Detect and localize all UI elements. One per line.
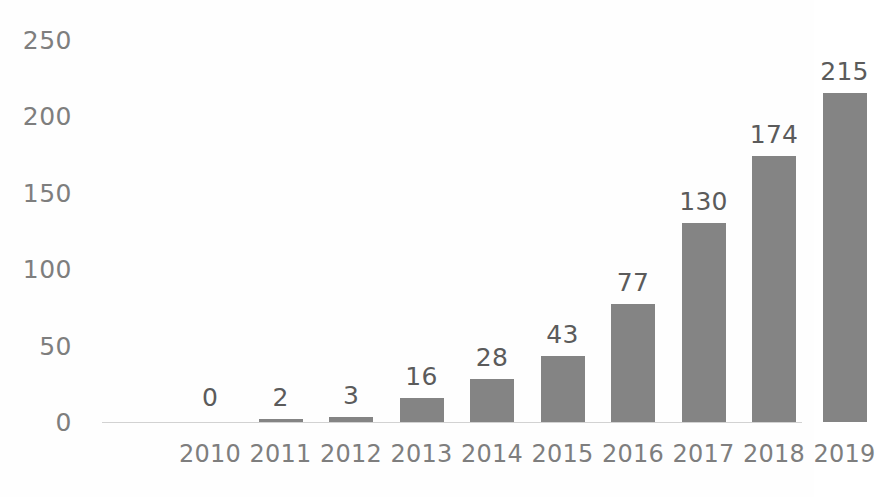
y-axis-tick-label: 150 — [10, 180, 72, 205]
x-axis-tick-label: 2015 — [532, 442, 594, 466]
x-axis-tick-label: 2017 — [673, 442, 735, 466]
x-axis-tick-label: 2016 — [602, 442, 664, 466]
bar-group[interactable]: 215 — [823, 93, 867, 422]
x-axis-tick-label: 2019 — [814, 442, 875, 466]
bar-group[interactable]: 16 — [400, 398, 444, 422]
bar-value-label: 28 — [476, 345, 508, 370]
bar-value-label: 215 — [820, 59, 869, 84]
bar-value-label: 0 — [202, 385, 218, 410]
bar-value-label: 2 — [272, 385, 288, 410]
bar-value-label: 16 — [405, 364, 437, 389]
x-axis-tick-label: 2018 — [743, 442, 805, 466]
bar-group[interactable]: 77 — [611, 304, 655, 422]
plot-area: 0201022011320121620132820144320157720161… — [88, 0, 814, 497]
bar-value-label: 174 — [750, 122, 799, 147]
bar-rect[interactable] — [541, 356, 585, 422]
bar-rect[interactable] — [259, 419, 303, 422]
bar-group[interactable]: 174 — [752, 156, 796, 422]
bar-group[interactable]: 28 — [470, 379, 514, 422]
bar-value-label: 130 — [679, 189, 728, 214]
bar-group[interactable]: 3 — [329, 417, 373, 422]
bar-group[interactable]: 2 — [259, 419, 303, 422]
x-axis-tick-label: 2014 — [461, 442, 523, 466]
bar-group[interactable]: 43 — [541, 356, 585, 422]
y-axis-tick-label: 100 — [10, 257, 72, 282]
y-axis-tick-label: 200 — [10, 104, 72, 129]
x-axis-tick-label: 2013 — [391, 442, 453, 466]
y-axis-tick-label: 50 — [10, 333, 72, 358]
bar-value-label: 3 — [343, 383, 359, 408]
bar-rect[interactable] — [470, 379, 514, 422]
bar-rect[interactable] — [823, 93, 867, 422]
bar-rect[interactable] — [682, 223, 726, 422]
y-axis-tick-label: 0 — [10, 410, 72, 435]
bar-rect[interactable] — [400, 398, 444, 422]
x-axis-tick-label: 2012 — [320, 442, 382, 466]
bar-rect[interactable] — [752, 156, 796, 422]
x-axis-tick-label: 2011 — [250, 442, 312, 466]
bar-rect[interactable] — [329, 417, 373, 422]
bar-group[interactable]: 130 — [682, 223, 726, 422]
bar-value-label: 77 — [617, 270, 649, 295]
bar-group[interactable]: 0 — [188, 421, 232, 422]
bars-layer: 0201022011320121620132820144320157720161… — [88, 0, 814, 497]
x-axis-tick-label: 2010 — [179, 442, 241, 466]
y-axis-tick-labels: 050100150200250 — [10, 0, 72, 497]
bar-value-label: 43 — [546, 322, 578, 347]
y-axis-tick-label: 250 — [10, 28, 72, 53]
bar-rect[interactable] — [611, 304, 655, 422]
